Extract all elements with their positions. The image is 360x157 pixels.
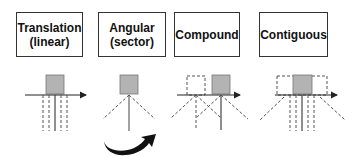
translation-object	[46, 75, 64, 94]
compound-diagram	[171, 75, 248, 130]
contiguous-diagram	[260, 75, 345, 131]
angular-diagram	[103, 75, 156, 155]
translation-diagram	[25, 75, 86, 131]
compound-previous-position	[187, 76, 205, 95]
angular-object	[120, 75, 138, 94]
scan-modes-diagram	[0, 0, 360, 157]
compound-object	[212, 75, 230, 94]
contiguous-object	[293, 75, 312, 94]
rotation-arrow-icon	[104, 134, 156, 155]
